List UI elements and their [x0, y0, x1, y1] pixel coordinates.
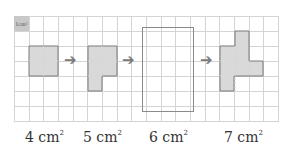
- area-label-2: 5 cm2: [83, 129, 122, 145]
- arrow-icon: ➔: [122, 53, 135, 68]
- shape-5cm2: [88, 46, 117, 91]
- shape-6cm2: [143, 28, 194, 112]
- arrow-icon: ➔: [64, 53, 77, 68]
- area-label-1: 4 cm2: [25, 129, 64, 145]
- arrow-icon: ➔: [200, 53, 213, 68]
- area-label-4: 7 cm2: [224, 129, 263, 145]
- area-label-3: 6 cm2: [149, 129, 188, 145]
